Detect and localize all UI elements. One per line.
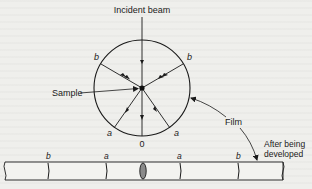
diffraction-diagram: Incident beam Sample b b a a 0 Film Afte… — [0, 0, 312, 189]
label-zero: 0 — [139, 139, 144, 149]
developed-film-strip — [4, 162, 284, 180]
ray-a-left — [114, 88, 142, 128]
sample-dot — [139, 85, 144, 90]
strip-label-a1: a — [104, 151, 109, 161]
film-label: Film — [225, 117, 242, 127]
strip-label-b1: b — [46, 151, 51, 161]
label-b-left: b — [94, 52, 99, 62]
label-b-right: b — [187, 52, 192, 62]
sample-pointer — [80, 89, 138, 94]
label-a-left: a — [107, 128, 112, 138]
ray-b-left — [101, 64, 142, 88]
arrow-icon — [140, 115, 144, 120]
after-being-label: After being — [264, 139, 305, 149]
incident-beam-arrow-icon — [140, 60, 144, 64]
developed-pointer — [240, 128, 257, 160]
ray-a-right — [142, 88, 170, 128]
ray-arrows — [120, 73, 168, 120]
label-a-right: a — [174, 128, 179, 138]
incident-beam-label: Incident beam — [114, 5, 171, 15]
center-spot — [140, 163, 146, 179]
film-pointer — [191, 98, 226, 117]
strip-label-b2: b — [236, 151, 241, 161]
sample-label: Sample — [52, 88, 83, 98]
strip-label-a2: a — [177, 151, 182, 161]
developed-label: developed — [264, 149, 304, 159]
